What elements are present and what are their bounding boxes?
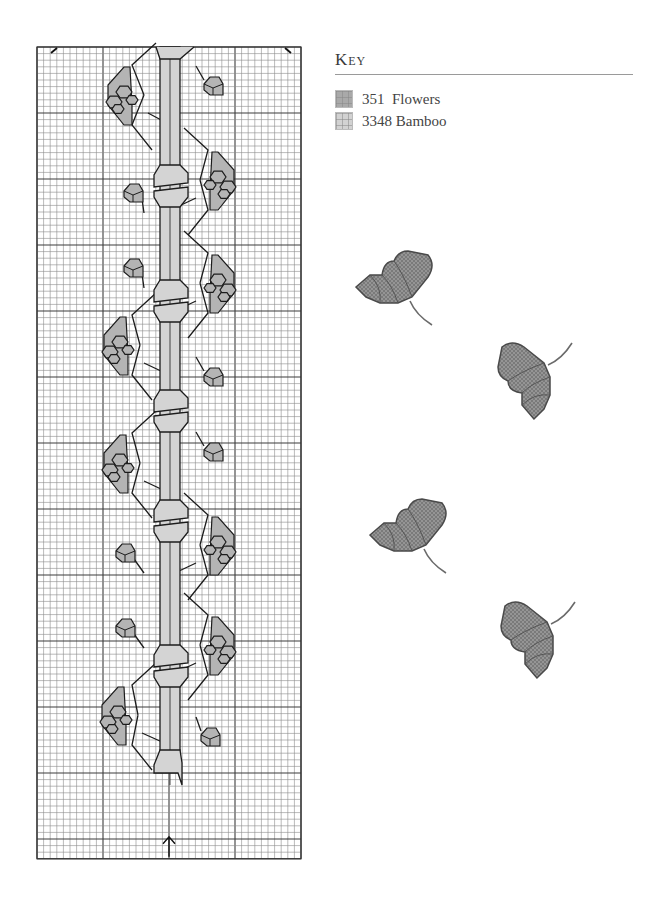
key-item-label: 351 Flowers	[362, 91, 440, 108]
bamboo-swatch-icon	[335, 112, 353, 130]
flowers-swatch-icon	[335, 90, 353, 108]
key-item-label: 3348 Bamboo	[362, 113, 447, 130]
stitched-flower-4	[501, 602, 575, 678]
key-divider	[335, 74, 633, 75]
stitched-flower-2	[498, 343, 572, 419]
key-title: Key	[335, 50, 633, 74]
stitched-flower-3	[370, 499, 446, 573]
key-item-bamboo: 3348 Bamboo	[335, 111, 633, 131]
key-item-flowers: 351 Flowers	[335, 89, 633, 109]
stitched-flower-1	[356, 251, 432, 325]
color-key: Key 351 Flowers 3348 Bamboo	[335, 50, 633, 133]
cross-stitch-chart	[0, 0, 670, 904]
stitched-sample-photos	[356, 251, 575, 678]
